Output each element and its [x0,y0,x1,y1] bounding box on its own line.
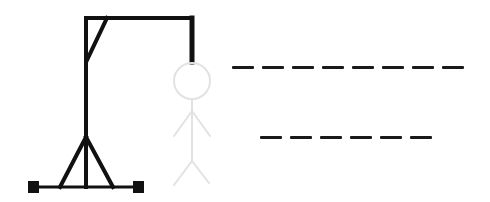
gallows-left-brace [60,137,86,187]
letter-blank [412,66,434,69]
figure-left-leg [174,161,192,185]
figure-right-leg [192,161,209,183]
word-blanks-2 [260,136,432,139]
letter-blank [410,136,432,139]
letter-blank [322,66,344,69]
letter-blank [260,136,282,139]
word-blanks-1 [232,66,464,69]
figure-left-arm [174,111,192,136]
letter-blank [442,66,464,69]
gallows-right-foot [133,181,144,193]
letter-blank [350,136,372,139]
figure-right-arm [192,111,210,136]
letter-blank [320,136,342,139]
gallows-diagonal-brace [87,18,107,60]
letter-blank [290,136,312,139]
figure-head [174,63,210,99]
stick-figure [174,63,210,185]
letter-blank [380,136,402,139]
letter-blank [262,66,284,69]
letter-blank [292,66,314,69]
gallows-drawing [0,0,490,202]
gallows-left-foot [28,181,39,193]
letter-blank [232,66,254,69]
letter-blank [382,66,404,69]
letter-blank [352,66,374,69]
hangman-board [0,0,490,202]
gallows-right-brace [86,137,113,187]
gallows [28,18,192,193]
